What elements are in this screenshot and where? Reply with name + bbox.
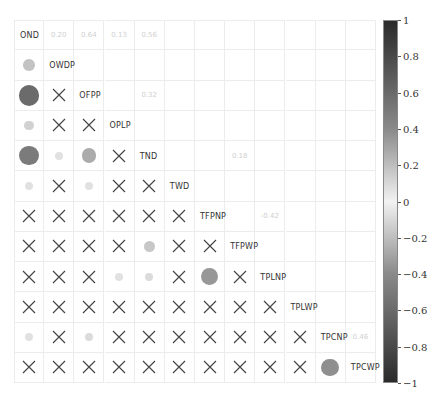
nonsignificant-cell: [255, 292, 285, 322]
nonsignificant-cell: [225, 353, 255, 383]
correlation-value: 0.46: [353, 333, 369, 341]
correlation-value-cell: [135, 50, 165, 80]
colorbar-tick-label: 0.6: [403, 87, 419, 98]
colorbar-tick-label: −1: [403, 378, 418, 389]
cross-icon: [21, 208, 37, 224]
cross-icon: [21, 299, 37, 315]
correlation-value-cell: [225, 202, 255, 232]
nonsignificant-cell: [105, 292, 135, 322]
correlation-value-cell: [286, 20, 316, 50]
colorbar-tick-mark: [398, 165, 401, 166]
cross-icon: [202, 299, 218, 315]
variable-label: TPCNP: [321, 333, 348, 342]
cross-icon: [232, 299, 248, 315]
cross-icon: [202, 329, 218, 345]
colorbar-tick-label: −0.6: [403, 305, 427, 316]
nonsignificant-cell: [255, 353, 285, 383]
cross-icon: [141, 299, 157, 315]
correlation-value: 0.56: [141, 31, 157, 39]
cross-icon: [141, 359, 157, 375]
variable-label: TND: [140, 151, 158, 160]
correlation-value-cell: 0.20: [44, 20, 74, 50]
nonsignificant-cell: [44, 323, 74, 353]
correlation-value-cell: [225, 50, 255, 80]
nonsignificant-cell: [74, 262, 104, 292]
correlation-value-cell: [255, 81, 285, 111]
cross-icon: [292, 359, 308, 375]
correlation-value-cell: [195, 50, 225, 80]
nonsignificant-cell: [44, 111, 74, 141]
variable-label: OND: [20, 31, 39, 40]
correlation-value-cell: [135, 111, 165, 141]
nonsignificant-cell: [44, 262, 74, 292]
nonsignificant-cell: [105, 141, 135, 171]
cross-icon: [232, 359, 248, 375]
correlation-value-cell: [225, 20, 255, 50]
cross-icon: [141, 329, 157, 345]
cross-icon: [202, 238, 218, 254]
correlation-value-cell: [286, 232, 316, 262]
nonsignificant-cell: [165, 232, 195, 262]
cross-icon: [51, 208, 67, 224]
correlation-value-cell: [346, 141, 376, 171]
correlation-value-cell: [105, 50, 135, 80]
nonsignificant-cell: [14, 292, 44, 322]
correlation-value-cell: 0.64: [74, 20, 104, 50]
nonsignificant-cell: [165, 323, 195, 353]
variable-label: OWDP: [49, 60, 75, 69]
diagonal-label-cell: TPLNP: [255, 262, 285, 292]
cross-icon: [171, 359, 187, 375]
correlation-circle-cell: [135, 262, 165, 292]
correlation-circle-cell: [14, 323, 44, 353]
colorbar-tick-mark: [398, 129, 401, 130]
nonsignificant-cell: [14, 202, 44, 232]
colorbar-tick-label: −0.8: [403, 341, 427, 352]
correlation-value-cell: [316, 50, 346, 80]
correlation-circle-cell: [74, 171, 104, 201]
cross-icon: [51, 269, 67, 285]
colorbar: [383, 20, 398, 383]
correlation-value-cell: [286, 81, 316, 111]
correlation-value-cell: [346, 202, 376, 232]
nonsignificant-cell: [225, 292, 255, 322]
colorbar-tick-mark: [398, 347, 401, 348]
correlation-value-cell: [346, 232, 376, 262]
diagonal-label-cell: OWDP: [44, 50, 74, 80]
colorbar-tick-mark: [398, 310, 401, 311]
correlation-value-cell: [195, 141, 225, 171]
nonsignificant-cell: [135, 202, 165, 232]
correlation-value-cell: [225, 111, 255, 141]
correlation-circle-cell: [14, 141, 44, 171]
correlation-circle-cell: [14, 171, 44, 201]
diagonal-label-cell: TFPWP: [225, 232, 255, 262]
nonsignificant-cell: [44, 232, 74, 262]
cross-icon: [141, 178, 157, 194]
correlation-value-cell: [316, 202, 346, 232]
colorbar-tick-mark: [398, 20, 401, 21]
correlation-value-cell: [165, 50, 195, 80]
correlation-value: 0.64: [81, 31, 97, 39]
diagonal-label-cell: TPCNP: [316, 323, 346, 353]
diagonal-label-cell: OND: [14, 20, 44, 50]
correlation-circle: [24, 121, 33, 130]
colorbar-tick-label: 1: [403, 15, 409, 26]
nonsignificant-cell: [286, 353, 316, 383]
cross-icon: [81, 299, 97, 315]
nonsignificant-cell: [135, 323, 165, 353]
nonsignificant-cell: [135, 353, 165, 383]
colorbar-tick-label: 0: [403, 196, 409, 207]
colorbar-tick-mark: [398, 383, 401, 384]
variable-label: TPLWP: [291, 302, 318, 311]
correlation-value-cell: [316, 141, 346, 171]
colorbar-tick-mark: [398, 56, 401, 57]
colorbar-tick-mark: [398, 93, 401, 94]
correlation-circle: [115, 273, 123, 281]
correlation-value-cell: [165, 81, 195, 111]
correlation-value-cell: [225, 171, 255, 201]
nonsignificant-cell: [195, 232, 225, 262]
correlation-value-cell: [255, 141, 285, 171]
cross-icon: [51, 299, 67, 315]
nonsignificant-cell: [105, 232, 135, 262]
correlation-value-cell: 0.18: [225, 141, 255, 171]
correlation-circle: [25, 182, 33, 190]
